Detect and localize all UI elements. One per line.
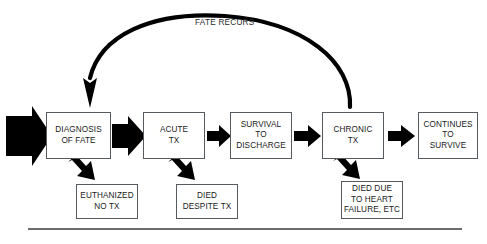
- node-label: DIED DESPITE TX: [183, 191, 232, 212]
- node-survival-to-discharge[interactable]: SURVIVAL TO DISCHARGE: [230, 112, 292, 159]
- fate-recurs-curve: [83, 15, 350, 108]
- node-label: CONTINUES TO SURVIVE: [423, 120, 472, 151]
- node-label: ACUTE TX: [160, 125, 188, 146]
- arrow-chronic-to-continues: [388, 125, 415, 147]
- node-diagnosis-of-fate[interactable]: DIAGNOSIS OF FATE: [46, 112, 111, 159]
- node-continues-to-survive[interactable]: CONTINUES TO SURVIVE: [418, 112, 478, 159]
- node-chronic-tx[interactable]: CHRONIC TX: [322, 112, 384, 159]
- arrow-survival-to-chronic: [294, 125, 321, 147]
- node-label: SURVIVAL TO DISCHARGE: [236, 120, 286, 151]
- node-label: DIAGNOSIS OF FATE: [55, 125, 101, 146]
- arrow-diagnosis-to-acute: [112, 116, 146, 156]
- arrow-acute-to-survival: [207, 125, 231, 147]
- node-label: DIED DUE TO HEART FAILURE, ETC: [344, 184, 400, 215]
- node-died-despite-tx[interactable]: DIED DESPITE TX: [176, 184, 238, 219]
- diagram-canvas: DIAGNOSIS OF FATE ACUTE TX SURVIVAL TO D…: [0, 0, 487, 244]
- node-acute-tx[interactable]: ACUTE TX: [143, 112, 205, 159]
- node-label: CHRONIC TX: [334, 125, 373, 146]
- node-euthanized-no-tx[interactable]: EUTHANIZED NO TX: [76, 184, 138, 219]
- node-died-due-to-heart-failure[interactable]: DIED DUE TO HEART FAILURE, ETC: [341, 181, 403, 219]
- node-label: EUTHANIZED NO TX: [80, 191, 133, 212]
- edge-label-fate-recurs: FATE RECURS: [195, 18, 254, 27]
